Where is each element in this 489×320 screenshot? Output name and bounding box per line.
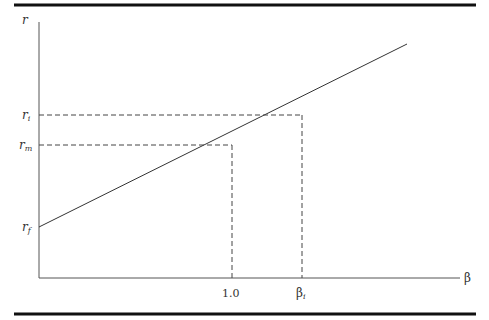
rm-label: rm [19,139,32,153]
beta-i-base: β [296,286,303,300]
y-axis-label: r [22,14,28,26]
ri-label: ri [22,109,30,123]
beta-i-sub: i [303,292,306,301]
beta-i-label: βi [296,287,306,301]
rm-sub: m [25,144,33,153]
sml-line [39,44,407,227]
ri-sub: i [28,114,31,123]
rf-label: rf [22,221,31,235]
beta-one-label: 1.0 [222,288,240,299]
sml-diagram [0,0,489,320]
x-axis-label: β [464,272,471,284]
rf-sub: f [28,226,31,235]
